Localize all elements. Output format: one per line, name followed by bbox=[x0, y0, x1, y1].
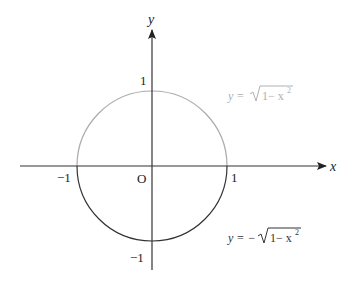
y-tick-pos-one: 1 bbox=[140, 73, 147, 88]
upper-eq-exponent: 2 bbox=[287, 86, 291, 95]
svg-text:y = −: y = − bbox=[227, 231, 256, 245]
svg-text:1− x: 1− x bbox=[262, 89, 284, 103]
y-tick-neg-one: −1 bbox=[130, 250, 144, 265]
svg-text:y =: y = bbox=[227, 89, 244, 103]
x-axis-label: x bbox=[329, 159, 337, 174]
y-axis-label: y bbox=[146, 12, 155, 27]
lower-eq-radicand: 1− x bbox=[270, 231, 292, 245]
svg-text:2: 2 bbox=[287, 86, 291, 95]
lower-eq-exponent: 2 bbox=[295, 228, 299, 237]
diagram-svg: x y O −1 1 1 −1 y = 1− x 2 y = − bbox=[0, 0, 350, 283]
upper-eq-prefix: y = bbox=[227, 89, 244, 103]
svg-text:2: 2 bbox=[295, 228, 299, 237]
lower-eq-prefix: y = − bbox=[227, 231, 256, 245]
unit-circle-diagram: x y O −1 1 1 −1 y = 1− x 2 y = − bbox=[0, 0, 350, 283]
upper-equation: y = 1− x 2 bbox=[227, 86, 293, 103]
x-tick-neg-one: −1 bbox=[57, 170, 71, 185]
x-tick-pos-one: 1 bbox=[231, 170, 238, 185]
origin-label: O bbox=[137, 171, 146, 186]
svg-text:1− x: 1− x bbox=[270, 231, 292, 245]
upper-eq-radicand: 1− x bbox=[262, 89, 284, 103]
lower-equation: y = − 1− x 2 bbox=[227, 228, 301, 245]
